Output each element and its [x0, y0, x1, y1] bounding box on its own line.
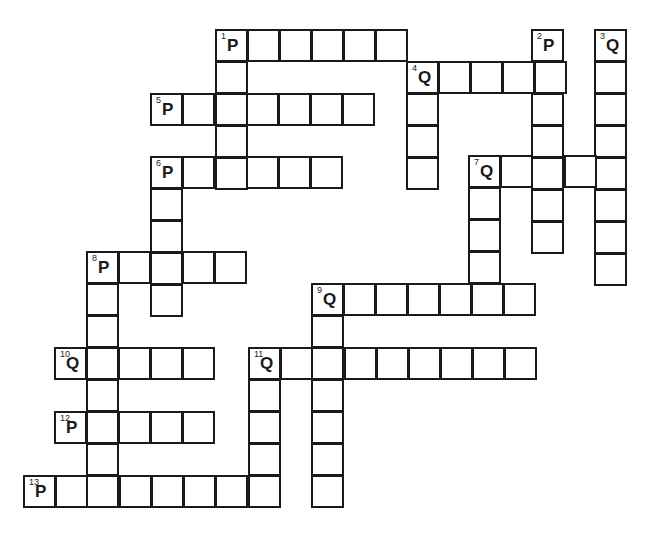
grid-cell[interactable]: [215, 125, 248, 158]
grid-cell[interactable]: [564, 155, 597, 188]
grid-cell[interactable]: [247, 29, 280, 62]
clue-cell-2[interactable]: 2P: [531, 29, 564, 62]
grid-cell[interactable]: [311, 443, 344, 476]
grid-cell[interactable]: [279, 29, 312, 62]
grid-cell[interactable]: [531, 125, 564, 158]
grid-cell[interactable]: [215, 475, 248, 508]
grid-cell[interactable]: [248, 475, 281, 508]
grid-cell[interactable]: [440, 347, 473, 380]
grid-cell[interactable]: [310, 156, 343, 189]
grid-cell[interactable]: [534, 61, 567, 94]
grid-cell[interactable]: [248, 443, 281, 476]
grid-cell[interactable]: [408, 347, 441, 380]
grid-cell[interactable]: [406, 93, 439, 126]
grid-cell[interactable]: [594, 157, 627, 190]
grid-cell[interactable]: [118, 411, 151, 444]
grid-cell[interactable]: [594, 61, 627, 94]
grid-cell[interactable]: [504, 347, 537, 380]
grid-cell[interactable]: [182, 411, 215, 444]
grid-cell[interactable]: [500, 155, 533, 188]
grid-cell[interactable]: [119, 475, 152, 508]
grid-cell[interactable]: [150, 220, 183, 253]
grid-cell[interactable]: [439, 283, 472, 316]
grid-cell[interactable]: [215, 61, 248, 94]
grid-cell[interactable]: [55, 475, 88, 508]
clue-cell-9[interactable]: 9Q: [311, 283, 344, 316]
grid-cell[interactable]: [407, 283, 440, 316]
grid-cell[interactable]: [86, 443, 119, 476]
grid-cell[interactable]: [311, 347, 344, 380]
grid-cell[interactable]: [311, 315, 344, 348]
grid-cell[interactable]: [471, 283, 504, 316]
clue-cell-10[interactable]: 10Q: [54, 347, 87, 380]
grid-cell[interactable]: [86, 283, 119, 316]
grid-cell[interactable]: [182, 156, 215, 189]
grid-cell[interactable]: [406, 157, 439, 190]
grid-cell[interactable]: [594, 125, 627, 158]
grid-cell[interactable]: [246, 156, 279, 189]
grid-cell[interactable]: [468, 251, 501, 284]
clue-cell-7[interactable]: 7Q: [468, 155, 501, 188]
grid-cell[interactable]: [118, 251, 151, 284]
grid-cell[interactable]: [183, 475, 216, 508]
grid-cell[interactable]: [594, 189, 627, 222]
grid-cell[interactable]: [375, 283, 408, 316]
grid-cell[interactable]: [343, 29, 376, 62]
grid-cell[interactable]: [215, 93, 248, 126]
grid-cell[interactable]: [86, 411, 119, 444]
clue-cell-3[interactable]: 3Q: [594, 29, 627, 62]
grid-cell[interactable]: [311, 475, 344, 508]
grid-cell[interactable]: [343, 283, 376, 316]
grid-cell[interactable]: [215, 157, 248, 190]
grid-cell[interactable]: [502, 61, 535, 94]
grid-cell[interactable]: [86, 475, 119, 508]
grid-cell[interactable]: [182, 93, 215, 126]
clue-cell-4[interactable]: 4Q: [406, 61, 439, 94]
grid-cell[interactable]: [118, 347, 151, 380]
clue-cell-13[interactable]: 13P: [23, 475, 56, 508]
grid-cell[interactable]: [86, 315, 119, 348]
grid-cell[interactable]: [280, 347, 313, 380]
grid-cell[interactable]: [248, 411, 281, 444]
clue-cell-6[interactable]: 6P: [150, 156, 183, 189]
grid-cell[interactable]: [438, 61, 471, 94]
grid-cell[interactable]: [278, 156, 311, 189]
grid-cell[interactable]: [182, 251, 215, 284]
grid-cell[interactable]: [531, 93, 564, 126]
grid-cell[interactable]: [503, 283, 536, 316]
clue-cell-5[interactable]: 5P: [150, 93, 183, 126]
grid-cell[interactable]: [594, 93, 627, 126]
grid-cell[interactable]: [248, 379, 281, 412]
grid-cell[interactable]: [214, 251, 247, 284]
grid-cell[interactable]: [531, 189, 564, 222]
grid-cell[interactable]: [531, 221, 564, 254]
clue-cell-11[interactable]: 11Q: [248, 347, 281, 380]
grid-cell[interactable]: [468, 187, 501, 220]
grid-cell[interactable]: [531, 157, 564, 190]
grid-cell[interactable]: [150, 284, 183, 317]
grid-cell[interactable]: [311, 29, 344, 62]
grid-cell[interactable]: [342, 93, 375, 126]
grid-cell[interactable]: [375, 29, 408, 62]
grid-cell[interactable]: [246, 93, 279, 126]
grid-cell[interactable]: [344, 347, 377, 380]
grid-cell[interactable]: [182, 347, 215, 380]
clue-cell-12[interactable]: 12P: [54, 411, 87, 444]
grid-cell[interactable]: [468, 219, 501, 252]
grid-cell[interactable]: [310, 93, 343, 126]
grid-cell[interactable]: [86, 347, 119, 380]
grid-cell[interactable]: [150, 252, 183, 285]
grid-cell[interactable]: [470, 61, 503, 94]
grid-cell[interactable]: [311, 411, 344, 444]
grid-cell[interactable]: [376, 347, 409, 380]
grid-cell[interactable]: [311, 379, 344, 412]
grid-cell[interactable]: [472, 347, 505, 380]
grid-cell[interactable]: [150, 188, 183, 221]
grid-cell[interactable]: [594, 221, 627, 254]
grid-cell[interactable]: [151, 475, 184, 508]
grid-cell[interactable]: [150, 411, 183, 444]
grid-cell[interactable]: [406, 125, 439, 158]
grid-cell[interactable]: [594, 253, 627, 286]
grid-cell[interactable]: [86, 379, 119, 412]
clue-cell-1[interactable]: 1P: [215, 29, 248, 62]
